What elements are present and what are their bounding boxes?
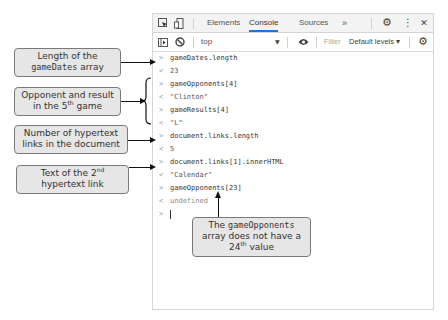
more-tabs-icon[interactable]: »: [342, 14, 347, 31]
console-command: document.links[1].innerHTML: [170, 156, 284, 169]
arrow-right-icon: [150, 137, 156, 143]
result-prompt-icon: <: [159, 65, 163, 78]
filter-input[interactable]: Filter: [324, 33, 341, 51]
console-command: gameDates.length: [170, 52, 237, 65]
input-prompt-icon: >: [159, 130, 163, 143]
console-command: gameResults[4]: [170, 104, 229, 117]
callout-code: gameDates: [31, 62, 77, 72]
callout-length: Length of the gameDates array: [14, 48, 121, 77]
input-prompt-icon: >: [159, 156, 163, 169]
console-result: undefined: [170, 195, 208, 208]
devtools-tab-bar: Elements Console Sources » ⚙ ⋮ ✕: [153, 14, 433, 33]
tab-console[interactable]: Console: [249, 14, 278, 32]
context-dropdown-arrow-icon[interactable]: ▼: [275, 33, 280, 51]
result-prompt-icon: <: [159, 195, 163, 208]
callout-superscript: nd: [97, 166, 105, 173]
callout-opponent-result: Opponent and result in the 5th game: [14, 87, 121, 116]
arrow-right-icon: [150, 59, 156, 65]
console-result-line: < undefined: [153, 195, 433, 208]
console-input-line: > document.links[1].innerHTML: [153, 156, 433, 169]
console-input-line: > gameDates.length: [153, 52, 433, 65]
devtools-panel: Elements Console Sources » ⚙ ⋮ ✕ top ▼ F…: [152, 13, 434, 310]
callout-undefined: The gameOpponents array does not have a …: [192, 217, 311, 257]
arrow-right-icon: [150, 164, 156, 170]
callout-text: game: [74, 101, 102, 111]
close-icon[interactable]: ✕: [419, 14, 429, 32]
input-prompt-icon: >: [159, 208, 163, 221]
console-command: gameOpponents[4]: [170, 78, 237, 91]
console-input-line: > gameResults[4]: [153, 104, 433, 117]
divider: [193, 18, 194, 29]
callout-text: array does not have a: [202, 231, 301, 241]
log-levels-dropdown[interactable]: Default levels ▾: [349, 33, 400, 51]
divider: [409, 37, 410, 48]
console-output[interactable]: > gameDates.length < 23 > gameOpponents[…: [153, 52, 433, 309]
connector-line: [121, 62, 152, 63]
tab-elements[interactable]: Elements: [207, 14, 240, 31]
input-prompt-icon: >: [159, 104, 163, 117]
divider: [193, 37, 194, 48]
arrow-up-icon: [215, 191, 221, 198]
settings-icon[interactable]: ⚙: [381, 14, 393, 32]
divider: [371, 18, 372, 29]
callout-text: Length of the: [37, 51, 97, 61]
console-command: gameOpponents[23]: [170, 182, 242, 195]
device-toolbar-icon[interactable]: [173, 14, 185, 32]
console-result-line: < 5: [153, 143, 433, 156]
connector-line: [128, 140, 152, 141]
divider: [287, 37, 288, 48]
console-input-line: > document.links.length: [153, 130, 433, 143]
connector-line: [129, 167, 152, 168]
divider: [316, 37, 317, 48]
tab-sources[interactable]: Sources: [299, 14, 328, 31]
callout-text: links in the document: [22, 139, 120, 149]
show-sidebar-icon[interactable]: [157, 33, 169, 51]
callout-links-length: Number of hypertext links in the documen…: [14, 125, 128, 154]
more-menu-icon[interactable]: ⋮: [403, 14, 411, 32]
console-result-line: < 23: [153, 65, 433, 78]
live-expression-eye-icon[interactable]: [296, 33, 310, 51]
callout-code: gameOpponents: [228, 220, 295, 230]
callout-text: Number of hypertext: [24, 128, 118, 138]
callout-text: Text of the 2: [41, 168, 97, 178]
console-result: "Clinton": [170, 91, 208, 104]
callout-text: value: [247, 242, 274, 252]
context-selector[interactable]: top: [201, 33, 212, 51]
callout-text: 24: [229, 242, 240, 252]
callout-text: hypertext link: [41, 179, 104, 189]
console-result: "L": [170, 117, 183, 130]
callout-text: array: [77, 62, 103, 72]
input-prompt-icon: >: [159, 78, 163, 91]
text-cursor: [170, 210, 171, 219]
console-toolbar: top ▼ Filter Default levels ▾ ⚙: [153, 33, 433, 52]
connector-line: [218, 196, 219, 217]
result-prompt-icon: <: [159, 117, 163, 130]
callout-text: The: [208, 220, 228, 230]
callout-text: in the 5: [33, 101, 67, 111]
console-result: "Calendar": [170, 169, 212, 182]
console-result-line: < "Clinton": [153, 91, 433, 104]
result-prompt-icon: <: [159, 169, 163, 182]
clear-console-icon[interactable]: [174, 33, 186, 51]
console-command: document.links.length: [170, 130, 259, 143]
result-prompt-icon: <: [159, 143, 163, 156]
input-prompt-icon: >: [159, 52, 163, 65]
console-result-line: < "Calendar": [153, 169, 433, 182]
inspect-element-icon[interactable]: [157, 14, 169, 32]
brace-icon: [142, 77, 152, 125]
console-input-line: > gameOpponents[23]: [153, 182, 433, 195]
console-result: 23: [170, 65, 178, 78]
callout-link-text: Text of the 2nd hypertext link: [16, 165, 129, 194]
console-input-line: > gameOpponents[4]: [153, 78, 433, 91]
input-prompt-icon: >: [159, 182, 163, 195]
console-result: 5: [170, 143, 174, 156]
console-result-line: < "L": [153, 117, 433, 130]
console-settings-icon[interactable]: ⚙: [417, 33, 429, 51]
result-prompt-icon: <: [159, 91, 163, 104]
